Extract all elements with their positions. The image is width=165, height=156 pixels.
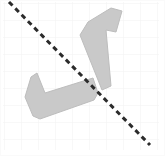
shape-reflection-canvas bbox=[0, 0, 165, 156]
canvas-svg bbox=[0, 0, 165, 156]
